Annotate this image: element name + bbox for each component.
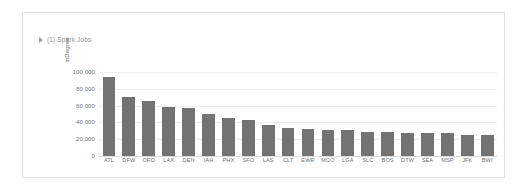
bar[interactable]	[341, 130, 354, 156]
bar[interactable]	[441, 133, 454, 156]
bar-slot	[199, 72, 219, 156]
plot-area: 020,00040,00060,00080,000100,000	[99, 72, 497, 156]
y-axis-title: inDegree	[62, 20, 72, 80]
bar-slot	[218, 72, 238, 156]
bar-slot	[278, 72, 298, 156]
x-axis-tick-label: SFO	[238, 158, 258, 164]
bar[interactable]	[401, 133, 414, 156]
bar[interactable]	[302, 129, 315, 156]
bar[interactable]	[122, 97, 135, 156]
bar[interactable]	[262, 125, 275, 156]
y-axis-tick-label: 20,000	[76, 136, 95, 142]
x-axis-tick-label: BOS	[378, 158, 398, 164]
bar[interactable]	[202, 114, 215, 156]
x-axis-labels: ATLDFWORDLAXDENIAHPHXSFOLASCLTEWRMCOLGAS…	[99, 158, 497, 164]
x-axis-tick-label: PHX	[218, 158, 238, 164]
bar[interactable]	[103, 77, 116, 156]
x-axis-tick-label: DFW	[119, 158, 139, 164]
notebook-output-cell: (1) Spark Jobs inDegree 020,00040,00060,…	[22, 12, 505, 178]
bar[interactable]	[162, 107, 175, 156]
bar[interactable]	[182, 108, 195, 156]
bar-slot	[139, 72, 159, 156]
x-axis-tick-label: MCO	[318, 158, 338, 164]
x-axis-tick-label: DTW	[398, 158, 418, 164]
bar[interactable]	[142, 101, 155, 156]
x-axis-tick-label: IAH	[199, 158, 219, 164]
bar-slot	[159, 72, 179, 156]
x-axis-tick-label: JFK	[457, 158, 477, 164]
x-axis-tick-label: SEA	[418, 158, 438, 164]
bar[interactable]	[361, 132, 374, 156]
x-axis-tick-label: EWR	[298, 158, 318, 164]
bar-slot	[477, 72, 497, 156]
bar-slot	[238, 72, 258, 156]
x-axis-tick-label: LGA	[338, 158, 358, 164]
gridline: 0	[99, 156, 497, 157]
bar-slot	[298, 72, 318, 156]
x-axis-tick-label: SLC	[358, 158, 378, 164]
bar-slot	[358, 72, 378, 156]
bar-slot	[437, 72, 457, 156]
x-axis-tick-label: ATL	[99, 158, 119, 164]
bar-chart: inDegree 020,00040,00060,00080,000100,00…	[45, 46, 506, 168]
bar[interactable]	[381, 132, 394, 156]
x-axis-tick-label: DEN	[179, 158, 199, 164]
bars-group	[99, 72, 497, 156]
bar-slot	[457, 72, 477, 156]
bar-slot	[418, 72, 438, 156]
bar-slot	[318, 72, 338, 156]
y-axis-tick-label: 40,000	[76, 119, 95, 125]
y-axis-tick-label: 0	[92, 153, 95, 159]
bar[interactable]	[481, 135, 494, 156]
bar[interactable]	[322, 130, 335, 156]
y-axis-tick-label: 60,000	[76, 103, 95, 109]
bar-slot	[378, 72, 398, 156]
bar-slot	[179, 72, 199, 156]
bar-slot	[258, 72, 278, 156]
y-axis-tick-label: 80,000	[76, 86, 95, 92]
x-axis-tick-label: BWI	[477, 158, 497, 164]
x-axis-tick-label: ORD	[139, 158, 159, 164]
bar-slot	[99, 72, 119, 156]
x-axis-tick-label: CLT	[278, 158, 298, 164]
bar[interactable]	[222, 118, 235, 156]
bar[interactable]	[282, 128, 295, 156]
x-axis-tick-label: LAX	[159, 158, 179, 164]
bar-slot	[119, 72, 139, 156]
bar[interactable]	[421, 133, 434, 156]
y-axis-tick-label: 100,000	[73, 69, 95, 75]
x-axis-tick-label: MSP	[437, 158, 457, 164]
bar-slot	[338, 72, 358, 156]
bar[interactable]	[242, 120, 255, 156]
screenshot-root: (1) Spark Jobs inDegree 020,00040,00060,…	[0, 0, 529, 193]
bar-slot	[398, 72, 418, 156]
x-axis-tick-label: LAS	[258, 158, 278, 164]
caret-right-icon	[39, 37, 43, 43]
bar[interactable]	[461, 135, 474, 156]
